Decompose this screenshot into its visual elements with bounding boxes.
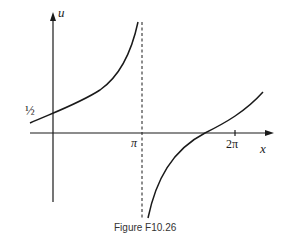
figure-caption: Figure F10.26 [114,223,176,233]
y-intercept-label: ½ [25,104,35,117]
y-axis-arrow-icon [50,12,56,21]
x-axis-label: x [260,142,266,155]
x-tick-label-pi: π [131,137,137,149]
x-tick-label-2pi: 2π [226,138,238,150]
function-plot [0,0,284,241]
y-axis-label: u [58,6,65,19]
x-axis-arrow-icon [265,130,274,136]
curve-right-branch [148,92,263,218]
curve-left-branch [30,22,138,123]
